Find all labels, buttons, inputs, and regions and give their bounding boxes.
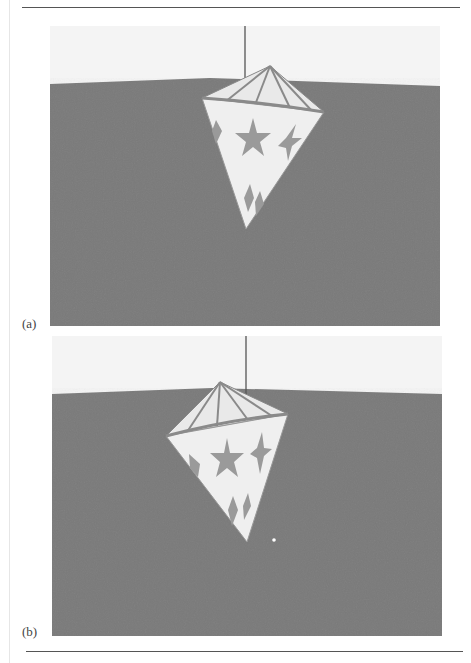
bottom-rule: [26, 651, 463, 652]
lantern-scene-b: [52, 336, 442, 636]
white-particle: [272, 538, 276, 542]
panel-label-a: (a): [22, 316, 36, 332]
panel-label-b: (b): [22, 624, 37, 640]
lantern-scene-a: [50, 26, 440, 326]
figure-panel-b: [52, 336, 442, 636]
figure-panel-a: [50, 26, 440, 326]
top-rule: [22, 7, 460, 8]
page-margin-line: [9, 0, 10, 663]
